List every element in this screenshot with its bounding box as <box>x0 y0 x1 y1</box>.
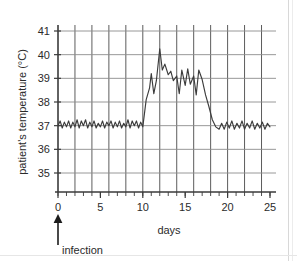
right-border-line-outer <box>292 0 293 261</box>
temperature-series-line <box>58 49 270 129</box>
temperature-chart: 35363738394041 0510152025 days patient's… <box>0 0 297 261</box>
y-axis-tick-labels: 35363738394041 <box>38 25 50 179</box>
x-tick-label: 10 <box>137 201 149 213</box>
y-tick-label: 40 <box>38 49 50 61</box>
y-tick-label: 38 <box>38 96 50 108</box>
horizontal-gridlines <box>58 31 276 173</box>
x-axis-title: days <box>157 224 181 236</box>
x-axis-tick-labels: 0510152025 <box>55 201 276 213</box>
x-tick-label: 25 <box>264 201 276 213</box>
right-border-line <box>288 0 289 261</box>
y-tick-label: 36 <box>38 143 50 155</box>
y-axis-title: patient's temperature (°C) <box>16 49 28 175</box>
y-tick-label: 41 <box>38 25 50 37</box>
infection-arrow-icon <box>54 214 63 245</box>
x-tick-label: 20 <box>221 201 233 213</box>
y-tick-label: 37 <box>38 120 50 132</box>
bottom-border-line <box>0 255 297 256</box>
x-axis-major-ticks <box>58 192 270 198</box>
y-tick-label: 35 <box>38 167 50 179</box>
x-tick-label: 5 <box>97 201 103 213</box>
y-tick-label: 39 <box>38 72 50 84</box>
x-tick-label: 15 <box>179 201 191 213</box>
x-tick-label: 0 <box>55 201 61 213</box>
figure-container: 35363738394041 0510152025 days patient's… <box>0 0 297 261</box>
